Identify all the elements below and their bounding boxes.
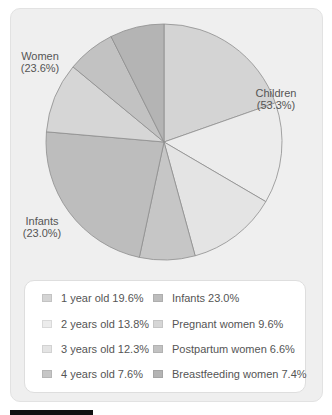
legend-text: Postpartum women 6.6%	[172, 343, 295, 355]
legend-item: 4 years old 7.6%	[42, 368, 143, 380]
legend-text: Infants 23.0%	[172, 292, 239, 304]
label-women: Women (23.6%)	[10, 50, 70, 74]
legend-swatch-icon	[153, 294, 163, 302]
label-children-pct: (53.3%)	[246, 99, 306, 111]
legend-swatch-icon	[153, 345, 163, 353]
label-infants-pct: (23.0%)	[12, 227, 72, 239]
legend-item: Infants 23.0%	[153, 292, 239, 304]
legend-text: 2 years old 13.8%	[61, 318, 149, 330]
legend-swatch-icon	[42, 345, 52, 353]
legend-text: 3 years old 12.3%	[61, 343, 149, 355]
legend-swatch-icon	[42, 320, 52, 328]
legend-item: Breastfeeding women 7.4%	[153, 368, 307, 380]
legend-item: Pregnant women 9.6%	[153, 318, 283, 330]
legend-swatch-icon	[42, 294, 52, 302]
legend-item: 3 years old 12.3%	[42, 343, 149, 355]
label-children: Children (53.3%)	[246, 87, 306, 111]
legend-text: Breastfeeding women 7.4%	[172, 368, 307, 380]
legend-swatch-icon	[153, 370, 163, 378]
label-women-name: Women	[10, 50, 70, 62]
legend-swatch-icon	[153, 320, 163, 328]
legend-text: 4 years old 7.6%	[61, 368, 143, 380]
legend-text: Pregnant women 9.6%	[172, 318, 283, 330]
label-infants-name: Infants	[12, 215, 72, 227]
section-divider-bar	[10, 410, 93, 415]
legend: 1 year old 19.6% 2 years old 13.8% 3 yea…	[24, 280, 306, 393]
legend-text: 1 year old 19.6%	[61, 292, 144, 304]
label-children-name: Children	[246, 87, 306, 99]
legend-item: 1 year old 19.6%	[42, 292, 144, 304]
label-infants: Infants (23.0%)	[12, 215, 72, 239]
legend-swatch-icon	[42, 370, 52, 378]
label-women-pct: (23.6%)	[10, 62, 70, 74]
legend-item: Postpartum women 6.6%	[153, 343, 295, 355]
legend-item: 2 years old 13.8%	[42, 318, 149, 330]
